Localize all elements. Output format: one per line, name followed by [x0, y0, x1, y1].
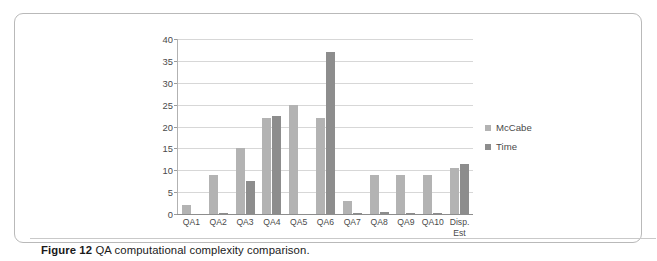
bar — [343, 201, 352, 214]
bar — [262, 118, 271, 214]
x-axis-tick-label: QA9 — [393, 217, 420, 239]
bar-group — [312, 39, 339, 214]
x-axis-tick-label: QA7 — [339, 217, 366, 239]
bar — [182, 205, 191, 214]
bar-group — [232, 39, 259, 214]
bar — [316, 118, 325, 214]
y-axis-tick-label: 10 — [163, 165, 173, 176]
bar-chart: 0510152025303540 QA1QA2QA3QA4QA5QA6QA7QA… — [151, 32, 511, 232]
y-axis-tick-label: 35 — [163, 55, 173, 66]
x-axis-tick-label: QA10 — [419, 217, 446, 239]
y-axis-tick-label: 25 — [163, 99, 173, 110]
bar — [380, 212, 389, 214]
bar-group — [178, 39, 205, 214]
x-axis-tick-label: QA4 — [258, 217, 285, 239]
chart-legend: McCabeTime — [485, 122, 595, 160]
caption-label: Figure 12 — [41, 244, 92, 256]
bar — [272, 116, 281, 214]
x-axis-tick-label: QA2 — [205, 217, 232, 239]
bar — [289, 105, 298, 214]
bar — [353, 213, 362, 214]
y-axis-tick-label: 30 — [163, 77, 173, 88]
bar — [326, 52, 335, 214]
figure-screenshot: 0510152025303540 QA1QA2QA3QA4QA5QA6QA7QA… — [0, 0, 657, 261]
bar — [370, 175, 379, 214]
bar-group — [366, 39, 393, 214]
figure-caption: Figure 12 QA computational complexity co… — [41, 244, 621, 256]
bar — [450, 168, 459, 214]
bar — [423, 175, 432, 214]
legend-swatch-icon — [485, 144, 491, 150]
bar — [433, 213, 442, 214]
legend-label: McCabe — [496, 122, 532, 133]
legend-item[interactable]: McCabe — [485, 122, 595, 133]
y-axis-tick-label: 20 — [163, 121, 173, 132]
x-axis-tick-label: Disp. Est — [446, 217, 473, 239]
bar-group — [258, 39, 285, 214]
y-axis-tick-label: 15 — [163, 143, 173, 154]
bar-group — [285, 39, 312, 214]
caption-text: QA computational complexity comparison. — [95, 244, 309, 256]
bar-group — [339, 39, 366, 214]
bar — [396, 175, 405, 214]
legend-item[interactable]: Time — [485, 141, 595, 152]
x-axis-tick-label: QA6 — [312, 217, 339, 239]
y-axis-tick-label: 5 — [168, 187, 173, 198]
plot-area: 0510152025303540 — [177, 39, 473, 215]
bar-series-container — [178, 39, 473, 214]
bar — [406, 213, 415, 214]
bar — [236, 148, 245, 214]
bar — [209, 175, 218, 214]
bar — [246, 181, 255, 214]
legend-swatch-icon — [485, 125, 491, 131]
x-axis-tick-label: QA5 — [285, 217, 312, 239]
bar-group — [393, 39, 420, 214]
x-axis-labels: QA1QA2QA3QA4QA5QA6QA7QA8QA9QA10Disp. Est — [178, 217, 473, 239]
y-axis-tick-label: 40 — [163, 34, 173, 45]
bar-group — [419, 39, 446, 214]
bar-group — [205, 39, 232, 214]
x-axis-tick-label: QA3 — [232, 217, 259, 239]
bar — [219, 213, 228, 214]
bar-group — [446, 39, 473, 214]
bar — [460, 164, 469, 214]
x-axis-line — [177, 214, 473, 215]
caption-divider — [30, 238, 656, 239]
figure-frame: 0510152025303540 QA1QA2QA3QA4QA5QA6QA7QA… — [14, 13, 642, 243]
x-axis-tick-label: QA1 — [178, 217, 205, 239]
x-axis-tick-label: QA8 — [366, 217, 393, 239]
legend-label: Time — [496, 141, 517, 152]
y-axis-tick-label: 0 — [168, 209, 173, 220]
